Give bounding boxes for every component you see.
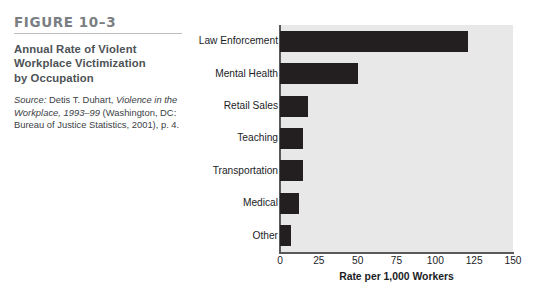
bar-retail-sales [280,96,308,117]
bar-track [280,25,513,57]
source-label: Source: [14,94,46,105]
category-label-law-enforcement: Law Enforcement [118,35,278,47]
figure-number: FIGURE 10–3 [14,14,182,34]
bar-chart: Law Enforcement Mental Health Retail Sal… [186,14,524,289]
bar-medical [280,193,299,214]
bar-other [280,225,291,246]
category-label-other: Other [118,230,278,242]
bar-law-enforcement [280,31,468,52]
bar-track [280,155,513,187]
figure-container: FIGURE 10–3 Annual Rate of Violent Workp… [0,0,534,301]
bar-row: Teaching [186,122,524,154]
x-tick-label: 125 [466,255,483,266]
x-tick-label: 50 [352,255,363,266]
source-author: Detis T. Duhart, [46,94,116,105]
x-axis-line [279,252,514,254]
bar-row: Law Enforcement [186,25,524,57]
bar-row: Mental Health [186,57,524,89]
x-axis-title: Rate per 1,000 Workers [280,271,513,282]
bar-row: Retail Sales [186,90,524,122]
x-tick-label: 75 [391,255,402,266]
category-label-mental-health: Mental Health [118,68,278,80]
x-axis-tick-labels: 0255075100125150 [280,255,513,271]
category-label-medical: Medical [118,197,278,209]
bar-row: Transportation [186,155,524,187]
bar-track [280,57,513,89]
category-label-retail-sales: Retail Sales [118,100,278,112]
category-label-transportation: Transportation [118,165,278,177]
bar-rows: Law Enforcement Mental Health Retail Sal… [186,25,524,252]
bar-track [280,220,513,252]
bar-row: Other [186,220,524,252]
x-tick-label: 25 [313,255,324,266]
x-tick-label: 100 [427,255,444,266]
x-tick-label: 0 [277,255,283,266]
bar-teaching [280,128,303,149]
bar-row: Medical [186,187,524,219]
bar-track [280,187,513,219]
bar-track [280,122,513,154]
category-label-teaching: Teaching [118,132,278,144]
bar-mental-health [280,63,358,84]
bar-transportation [280,160,303,181]
bar-track [280,90,513,122]
x-tick-label: 150 [505,255,522,266]
